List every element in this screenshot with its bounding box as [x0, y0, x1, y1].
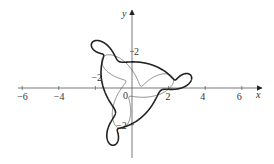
thick-curve: [91, 40, 191, 145]
svg-text:2: 2: [134, 46, 139, 57]
y-axis-label: y: [121, 8, 127, 19]
parametric-plot: −6−4−20246 2−2 x y: [0, 0, 274, 164]
svg-text:6: 6: [237, 91, 242, 102]
x-axis-label: x: [255, 89, 261, 100]
svg-text:2: 2: [166, 91, 171, 102]
svg-text:0: 0: [123, 90, 128, 101]
svg-text:−6: −6: [17, 91, 28, 102]
svg-text:4: 4: [200, 91, 205, 102]
y-ticks: 2−2: [116, 46, 139, 130]
thin-curve: [102, 55, 174, 129]
x-ticks: −6−4−20246: [17, 72, 242, 102]
svg-text:−4: −4: [54, 91, 65, 102]
